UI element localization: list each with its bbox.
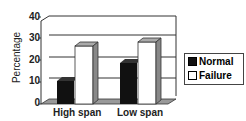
x-category-high-span: High span [53,107,101,118]
legend-swatch-failure-icon [188,71,197,80]
bar-high-failure [75,42,98,104]
legend-item-normal: Normal [185,54,243,68]
legend-label-normal: Normal [199,56,233,67]
legend-label-failure: Failure [199,70,232,81]
legend-item-failure: Failure [185,68,243,82]
legend: Normal Failure [184,53,244,85]
legend-swatch-normal-icon [188,57,197,66]
x-category-low-span: Low span [117,107,163,118]
bar-low-failure [138,38,161,104]
